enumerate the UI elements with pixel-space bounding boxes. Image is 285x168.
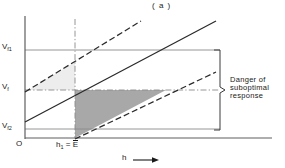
panel-title: ( a )	[152, 2, 171, 10]
dark-shaded-triangle	[75, 90, 166, 138]
x-tick-label-h1: h1 = E	[56, 140, 78, 150]
x-tick-relation-h1: =	[64, 140, 73, 149]
y-tick-label-vf: Vf	[2, 83, 9, 92]
y-tick-label-vf2: Vf2	[2, 122, 12, 131]
danger-annotation-line3: response	[230, 92, 269, 100]
x-axis-title: h	[122, 154, 126, 162]
y-tick-subscript-vf2: f2	[7, 125, 12, 131]
danger-annotation: Danger of suboptimal response	[230, 76, 269, 100]
x-tick-overline-e: E	[73, 140, 78, 149]
origin-label: O	[16, 140, 22, 148]
y-tick-subscript-vf: f	[7, 86, 9, 92]
figure-panel-a: ( a ) Vf1 Vf Vf2 O h1 = E h Danger of su…	[0, 0, 285, 168]
x-axis-arrow-icon	[133, 157, 159, 163]
series-upper-bound-response	[25, 21, 141, 92]
y-tick-subscript-vf1: f1	[7, 46, 12, 52]
y-tick-label-vf1: Vf1	[2, 43, 12, 52]
